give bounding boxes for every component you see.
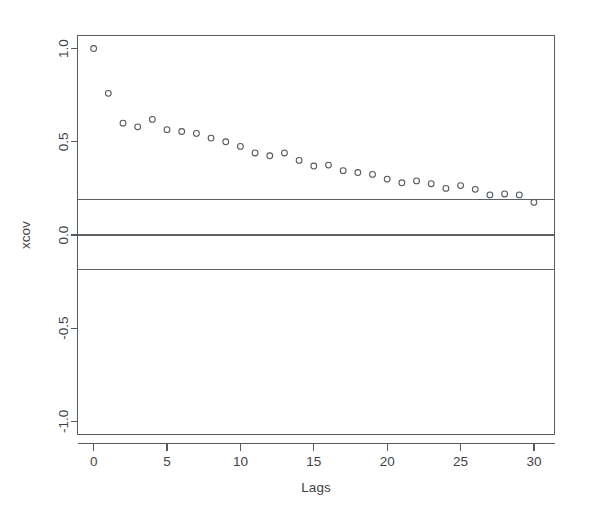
x-tick-label: 10: [233, 454, 248, 469]
y-tick-label: -1.0: [56, 410, 71, 433]
data-point: [531, 199, 537, 205]
data-point: [282, 150, 288, 156]
x-tick-label: 15: [306, 454, 321, 469]
cross-covariance-plot: 1.00.50.0-0.5-1.0 051015202530 Lags xcov: [0, 0, 601, 516]
data-point: [487, 192, 493, 198]
x-tick-label: 20: [380, 454, 395, 469]
data-point: [311, 163, 317, 169]
data-point: [414, 178, 420, 184]
data-points: [91, 46, 537, 206]
data-point: [91, 46, 97, 52]
data-point: [399, 180, 405, 186]
data-point: [458, 183, 464, 189]
y-axis-title: xcov: [18, 221, 33, 249]
y-tick-label: 0.5: [56, 132, 71, 151]
x-tick-label: 25: [453, 454, 468, 469]
x-tick-label: 0: [90, 454, 98, 469]
data-point: [502, 191, 508, 197]
y-tick-label: -0.5: [56, 317, 71, 340]
x-axis-ticks: 051015202530: [90, 444, 542, 469]
data-point: [326, 162, 332, 168]
data-point: [296, 158, 302, 164]
data-point: [208, 135, 214, 141]
data-point: [428, 181, 434, 187]
x-tick-label: 30: [526, 454, 541, 469]
data-point: [179, 129, 185, 135]
x-tick-label: 5: [163, 454, 171, 469]
data-point: [164, 127, 170, 133]
y-axis-ticks: 1.00.50.0-0.5-1.0: [56, 39, 77, 433]
data-point: [516, 192, 522, 198]
data-point: [135, 124, 141, 130]
data-point: [105, 90, 111, 96]
data-point: [193, 130, 199, 136]
data-point: [443, 185, 449, 191]
data-point: [340, 168, 346, 174]
data-point: [384, 176, 390, 182]
data-point: [267, 153, 273, 159]
data-point: [252, 150, 258, 156]
data-point: [370, 172, 376, 178]
y-tick-label: 0.0: [56, 226, 71, 245]
plot-svg: 1.00.50.0-0.5-1.0 051015202530 Lags xcov: [0, 0, 601, 516]
data-point: [238, 144, 244, 150]
data-point: [120, 120, 126, 126]
data-point: [472, 186, 478, 192]
data-point: [223, 139, 229, 145]
y-tick-label: 1.0: [56, 39, 71, 58]
data-point: [355, 170, 361, 176]
data-point: [149, 117, 155, 123]
x-axis-title: Lags: [301, 480, 331, 495]
reference-lines: [78, 200, 555, 270]
